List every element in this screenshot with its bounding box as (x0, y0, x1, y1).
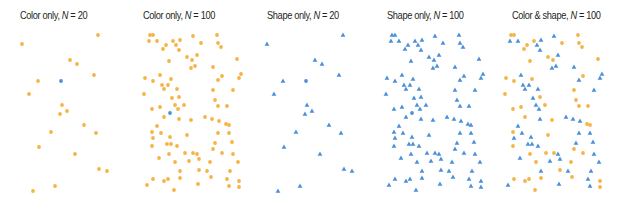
triangle-marker (420, 175, 425, 179)
triangle-marker (272, 91, 277, 95)
circle-marker (175, 144, 179, 148)
circle-marker (598, 185, 602, 189)
circle-marker (177, 117, 181, 121)
triangle-marker (458, 130, 463, 134)
triangle-marker (282, 144, 287, 148)
triangle-marker (439, 167, 444, 171)
circle-marker (525, 43, 529, 47)
triangle-marker (450, 159, 455, 163)
triangle-marker (592, 151, 597, 155)
triangle-marker (470, 168, 475, 172)
triangle-marker (458, 77, 463, 81)
circle-marker (215, 33, 219, 37)
triangle-marker (413, 38, 418, 42)
circle-marker (209, 175, 213, 179)
triangle-marker (437, 52, 442, 56)
circle-marker (155, 124, 159, 128)
circle-marker (569, 160, 573, 164)
triangle-marker (591, 139, 596, 143)
triangle-marker (397, 123, 402, 127)
triangle-marker (556, 151, 561, 155)
triangle-marker (409, 151, 414, 155)
triangle-marker (403, 46, 408, 50)
circle-marker (546, 133, 550, 137)
circle-marker (142, 92, 146, 96)
circle-marker (150, 144, 154, 148)
triangle-marker (473, 87, 478, 91)
circle-marker (105, 169, 109, 173)
triangle-marker (415, 159, 420, 163)
triangle-marker (453, 64, 458, 68)
circle-marker (170, 96, 174, 100)
circle-marker (216, 78, 220, 82)
triangle-marker (384, 91, 389, 95)
triangle-marker (298, 183, 303, 187)
triangle-marker (313, 57, 318, 61)
triangle-marker (600, 71, 605, 75)
circle-marker (528, 59, 532, 63)
circle-marker (161, 47, 165, 51)
triangle-marker (531, 95, 536, 99)
circle-marker (185, 133, 189, 137)
triangle-marker (400, 72, 405, 76)
circle-marker (167, 152, 171, 156)
circle-marker (574, 98, 578, 102)
triangle-marker (552, 33, 557, 37)
circle-marker (189, 66, 193, 70)
circle-marker (151, 177, 155, 181)
triangle-marker (265, 41, 270, 45)
triangle-marker (305, 102, 310, 106)
triangle-marker (472, 139, 477, 143)
circle-marker (166, 177, 170, 181)
circle-marker (147, 39, 151, 43)
circle-marker (220, 151, 224, 155)
scatter-panels (0, 0, 621, 202)
circle-marker (237, 76, 241, 80)
circle-marker (533, 188, 537, 192)
circle-marker (150, 130, 154, 134)
triangle-marker (417, 143, 422, 147)
triangle-marker (419, 116, 424, 120)
circle-marker (92, 73, 96, 77)
circle-marker (175, 87, 179, 91)
circle-marker (519, 105, 523, 109)
triangle-marker (415, 102, 420, 106)
circle-marker (530, 77, 534, 81)
circle-marker (239, 72, 243, 76)
circle-marker (211, 65, 215, 69)
triangle-marker (451, 174, 456, 178)
circle-marker (162, 179, 166, 183)
triangle-marker (571, 116, 576, 120)
circle-marker (210, 117, 214, 121)
circle-marker (551, 58, 555, 62)
circle-marker (168, 135, 172, 139)
circle-marker (205, 169, 209, 173)
circle-marker (572, 88, 576, 92)
circle-marker (65, 109, 69, 113)
circle-marker (570, 175, 574, 179)
triangle-marker (433, 150, 438, 154)
circle-marker (512, 79, 516, 83)
triangle-marker (556, 52, 561, 56)
circle-marker (172, 188, 176, 192)
circle-marker (151, 136, 155, 140)
triangle-marker (577, 130, 582, 134)
circle-marker (73, 152, 77, 156)
circle-marker (178, 38, 182, 42)
circle-marker (31, 189, 35, 193)
circle-marker (304, 79, 308, 83)
triangle-marker (578, 118, 583, 122)
circle-marker (58, 112, 62, 116)
triangle-marker (327, 122, 332, 126)
circle-marker (53, 184, 57, 188)
triangle-marker (408, 176, 413, 180)
triangle-marker (420, 37, 425, 41)
circle-marker (162, 87, 166, 91)
triangle-marker (399, 155, 404, 159)
triangle-marker (526, 141, 531, 145)
triangle-marker (418, 106, 423, 110)
triangle-marker (458, 103, 463, 107)
circle-marker (511, 107, 515, 111)
circle-marker (544, 151, 548, 155)
triangle-marker (457, 32, 462, 36)
